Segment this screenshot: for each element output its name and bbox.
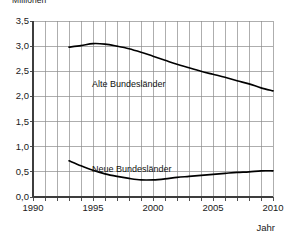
series-lines xyxy=(69,44,273,181)
x-tick-label: 2010 xyxy=(262,202,283,213)
line-chart: Millionen 0,00,51,01,52,02,53,03,5 Alte … xyxy=(0,0,287,243)
y-axis-unit-caption: Millionen xyxy=(12,0,46,5)
series-label-neue-bundeslaender: Neue Bundesländer xyxy=(92,164,172,174)
x-axis-tick-marks xyxy=(33,197,273,201)
y-tick-label: 1,0 xyxy=(16,142,29,152)
plot-area: Alte Bundesländer Neue Bundesländer xyxy=(33,21,273,197)
x-tick-label: 2005 xyxy=(202,202,223,213)
y-tick-label: 3,5 xyxy=(16,16,29,26)
y-tick-label: 1,5 xyxy=(16,117,29,127)
y-tick-label: 2,5 xyxy=(16,66,29,76)
y-tick-label: 0,5 xyxy=(16,167,29,177)
x-tick-label: 1995 xyxy=(82,202,103,213)
y-tick-label: 2,0 xyxy=(16,91,29,101)
series-label-alte-bundeslaender: Alte Bundesländer xyxy=(92,79,166,89)
x-axis-caption: Jahr xyxy=(257,222,275,233)
y-tick-label: 3,0 xyxy=(16,41,29,51)
x-tick-label: 2000 xyxy=(142,202,163,213)
x-axis-tick-labels: 19901995200020052010 xyxy=(33,202,273,216)
y-axis-tick-labels: 0,00,51,01,52,02,53,03,5 xyxy=(0,21,29,197)
x-tick-label: 1990 xyxy=(22,202,43,213)
y-tick-label: 0,0 xyxy=(16,192,29,202)
